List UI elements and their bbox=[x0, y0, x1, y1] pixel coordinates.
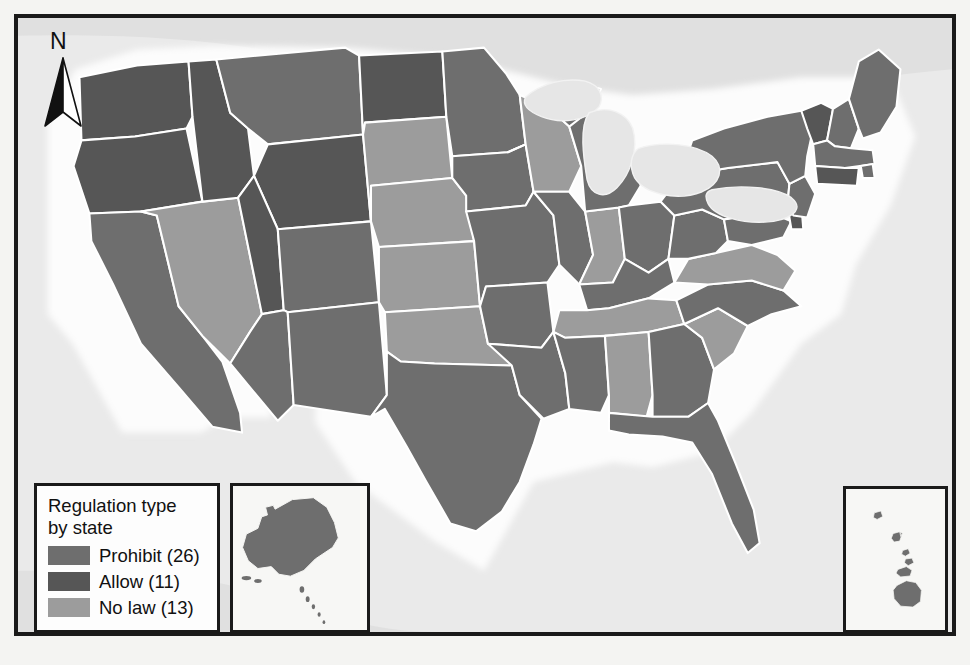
north-arrow-icon bbox=[42, 56, 84, 130]
state-WA bbox=[79, 61, 192, 140]
state-RI bbox=[861, 164, 875, 178]
state-KS bbox=[379, 241, 480, 312]
legend-label-allow: Allow (11) bbox=[99, 573, 180, 592]
hawaii-inset bbox=[843, 486, 948, 633]
state-CT bbox=[815, 166, 859, 186]
legend-label-no-law: No law (13) bbox=[99, 599, 194, 618]
map-figure: N Regulation type by state Prohibit (26)… bbox=[0, 0, 970, 665]
alaska-inset-svg bbox=[233, 486, 367, 630]
hawaii-inset-svg bbox=[846, 489, 945, 630]
state-OR bbox=[74, 129, 203, 214]
map-legend: Regulation type by state Prohibit (26) A… bbox=[34, 483, 220, 633]
legend-title-line1: Regulation type bbox=[48, 495, 217, 517]
alaska-inset bbox=[230, 483, 370, 633]
legend-title-line2: by state bbox=[48, 517, 217, 539]
map-frame: N Regulation type by state Prohibit (26)… bbox=[14, 14, 956, 636]
north-arrow-label: N bbox=[50, 30, 67, 53]
north-arrow: N bbox=[36, 30, 96, 130]
legend-swatch-prohibit bbox=[48, 546, 90, 565]
legend-title: Regulation type by state bbox=[48, 495, 217, 538]
legend-swatch-no-law bbox=[48, 598, 90, 617]
legend-item-allow[interactable]: Allow (11) bbox=[48, 569, 217, 594]
legend-label-prohibit: Prohibit (26) bbox=[99, 547, 200, 566]
state-AL bbox=[605, 332, 653, 417]
state-NE bbox=[371, 178, 474, 247]
state-NM bbox=[288, 302, 387, 417]
legend-item-no-law[interactable]: No law (13) bbox=[48, 595, 217, 620]
state-CO bbox=[278, 221, 379, 312]
state-AR bbox=[480, 283, 553, 348]
legend-swatch-allow bbox=[48, 572, 90, 591]
legend-item-prohibit[interactable]: Prohibit (26) bbox=[48, 543, 217, 568]
